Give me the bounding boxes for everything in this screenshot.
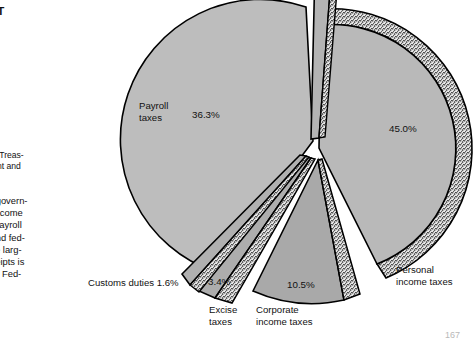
slice-label-customs-duties: Customs duties 1.6%	[88, 277, 179, 289]
slice-label-personal-line1: Personal	[396, 264, 453, 276]
slice-value-personal-income-taxes: 45.0%	[389, 123, 417, 135]
page-number: 167	[445, 330, 460, 340]
slice-label-personal-income-taxes: Personal income taxes	[396, 264, 453, 288]
slice-label-excise-line2: taxes	[209, 316, 237, 328]
slice-label-excise-line1: Excise	[209, 304, 237, 316]
slice-value-corporate-income-taxes: 10.5%	[287, 279, 315, 291]
slice-label-corporate-line2: income taxes	[256, 316, 313, 328]
slice-label-payroll-line2: taxes	[139, 112, 168, 124]
slice-label-corporate-income-taxes: Corporate income taxes	[256, 304, 313, 328]
slice-label-corporate-line1: Corporate	[256, 304, 313, 316]
slice-label-payroll-taxes: Payroll taxes	[139, 100, 168, 124]
slice-value-payroll-taxes: 36.3%	[192, 109, 220, 121]
slice-value-excise-taxes: 3.4%	[208, 276, 230, 288]
slice-label-excise-taxes: Excise taxes	[209, 304, 237, 328]
slice-label-personal-line2: income taxes	[396, 276, 453, 288]
slice-label-payroll-line1: Payroll	[139, 100, 168, 112]
